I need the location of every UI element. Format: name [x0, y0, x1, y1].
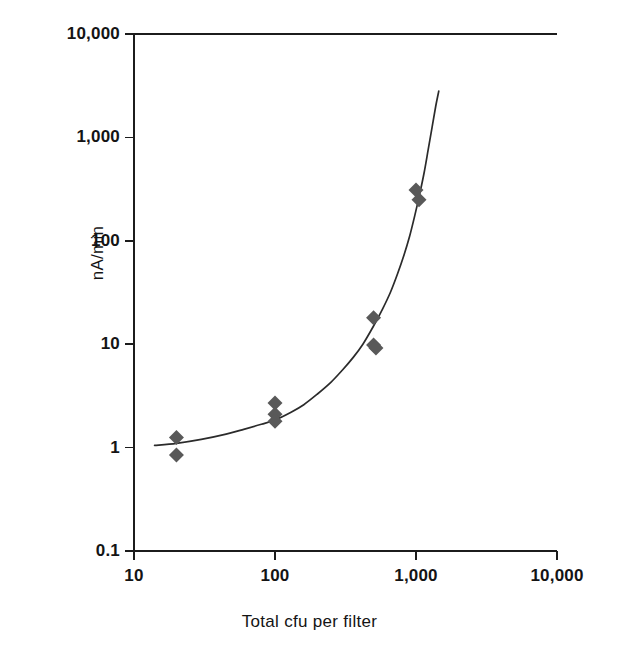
y-tick-label-1: 1 [10, 438, 120, 458]
y-tick-label-10: 10 [10, 334, 120, 354]
x-tick-label-100: 100 [261, 566, 290, 586]
y-tick-label-0.1: 0.1 [10, 541, 120, 561]
data-markers [169, 182, 427, 462]
y-tick-label-10,000: 10,000 [10, 24, 120, 44]
data-point-marker [366, 310, 381, 325]
chart-figure: 10,0001,0001001010.1 101001,00010,000 To… [0, 0, 619, 657]
data-point-marker [169, 447, 184, 462]
fitted-curve [155, 91, 439, 445]
x-axis-title: Total cfu per filter [0, 612, 619, 632]
y-tick-label-1,000: 1,000 [10, 127, 120, 147]
y-axis-title: nA/min [88, 183, 108, 323]
x-axis-ticks [134, 551, 557, 560]
x-tick-label-1,000: 1,000 [394, 566, 438, 586]
x-tick-label-10,000: 10,000 [530, 566, 583, 586]
x-tick-label-10: 10 [124, 566, 143, 586]
plot-frame [134, 34, 557, 551]
y-axis-ticks [125, 34, 134, 551]
